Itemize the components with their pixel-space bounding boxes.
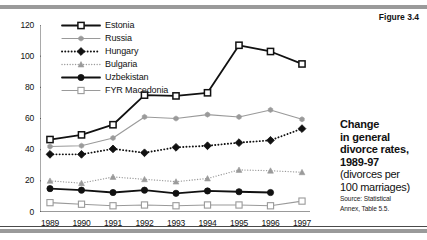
legend-item-bulgaria[interactable]: Bulgaria [60, 57, 168, 70]
legend-item-hungary[interactable]: Hungary [60, 44, 168, 57]
chart-legend: EstoniaRussiaHungaryBulgariaUzbekistanFY… [60, 18, 168, 96]
caption-line-6: 100 marriages) [340, 181, 426, 194]
legend-label: Hungary [105, 46, 138, 56]
caption-line-2: in general [340, 131, 426, 144]
legend-label: FYR Macedonia [105, 85, 168, 95]
x-axis-tick-label: 1997 [282, 218, 322, 228]
legend-item-estonia[interactable]: Estonia [60, 18, 168, 31]
series-uzbekistan [47, 186, 274, 197]
caption-block: Change in general divorce rates, 1989-97… [340, 118, 426, 213]
y-axis-tick-label: 0 [8, 207, 34, 217]
top-rule [0, 5, 427, 9]
legend-label: Estonia [105, 20, 134, 30]
open-square-icon [60, 83, 102, 96]
caption-line-1: Change [340, 118, 426, 131]
y-axis-tick-label: 80 [8, 82, 34, 92]
legend-label: Russia [105, 33, 132, 43]
series-hungary [46, 125, 306, 159]
series-fyr-macedonia [47, 198, 305, 209]
y-axis-tick-label: 20 [8, 175, 34, 185]
legend-item-russia[interactable]: Russia [60, 31, 168, 44]
filled-diamond-icon [60, 44, 102, 57]
y-axis-tick-label: 40 [8, 144, 34, 154]
y-axis-tick-label: 120 [8, 20, 34, 30]
series-bulgaria [47, 167, 305, 186]
figure-number: Figure 3.4 [379, 12, 419, 22]
caption-line-4: 1989-97 [340, 156, 426, 169]
legend-label: Bulgaria [105, 59, 137, 69]
bottom-rule [0, 229, 427, 233]
filled-circle-icon [60, 70, 102, 83]
source-line-2: Annex, Table 5.5. [340, 205, 426, 213]
y-axis-tick-label: 100 [8, 51, 34, 61]
figure-container: Figure 3.4 02040608010012019891990199119… [0, 0, 427, 240]
open-square-icon [60, 18, 102, 31]
caption-line-3: divorce rates, [340, 143, 426, 156]
small-star-icon [60, 31, 102, 44]
small-triangle-icon [60, 57, 102, 70]
legend-item-fyr-macedonia[interactable]: FYR Macedonia [60, 83, 168, 96]
legend-label: Uzbekistan [105, 72, 149, 82]
caption-line-5: (divorces per [340, 168, 426, 181]
y-axis-tick-label: 60 [8, 113, 34, 123]
legend-item-uzbekistan[interactable]: Uzbekistan [60, 70, 168, 83]
source-line-1: Source: Statistical [340, 195, 426, 203]
